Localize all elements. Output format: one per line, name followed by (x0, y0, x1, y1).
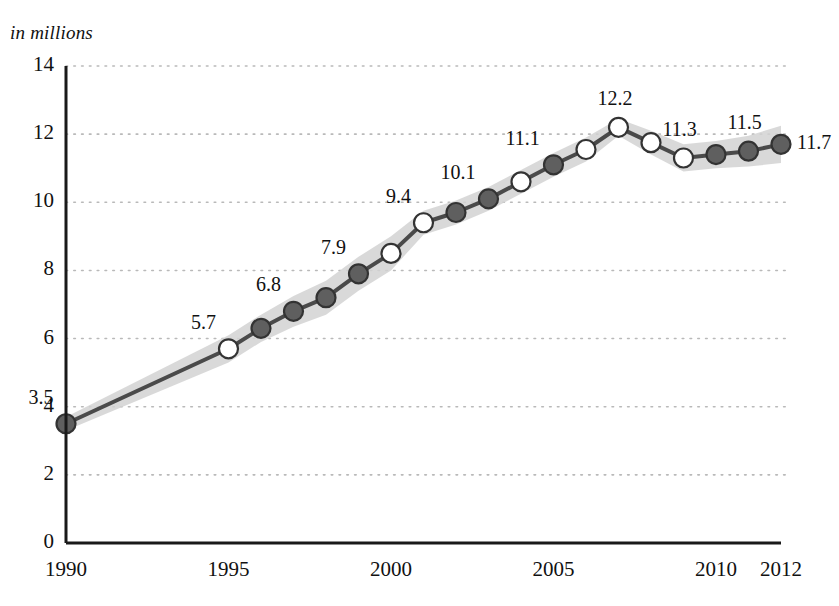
data-point-2000[interactable] (382, 244, 401, 263)
data-point-2008[interactable] (642, 133, 661, 152)
point-value-label-2009: 11.3 (663, 118, 697, 141)
x-tick-label-2012: 2012 (746, 557, 816, 582)
uncertainty-band (66, 119, 781, 431)
data-point-2002[interactable] (447, 203, 466, 222)
x-tick-label-2000: 2000 (356, 557, 426, 582)
data-point-1999[interactable] (349, 264, 368, 283)
point-value-label-1995: 5.7 (191, 311, 216, 334)
data-point-1997[interactable] (284, 302, 303, 321)
data-point-1995[interactable] (219, 339, 238, 358)
y-tick-label-12: 12 (14, 120, 54, 145)
point-value-label-2007: 12.2 (598, 87, 633, 110)
point-value-label-2001: 9.4 (386, 185, 411, 208)
data-point-2007[interactable] (609, 118, 628, 137)
point-value-label-2005: 11.1 (506, 127, 540, 150)
point-value-label-2012: 11.7 (797, 131, 831, 154)
data-point-2012[interactable] (772, 135, 791, 154)
y-tick-label-8: 8 (14, 256, 54, 281)
x-tick-label-1990: 1990 (31, 557, 101, 582)
data-point-2001[interactable] (414, 213, 433, 232)
y-tick-label-14: 14 (14, 52, 54, 77)
data-point-2010[interactable] (707, 145, 726, 164)
y-tick-label-0: 0 (14, 529, 54, 554)
data-point-2006[interactable] (577, 140, 596, 159)
data-point-1998[interactable] (317, 288, 336, 307)
y-tick-label-6: 6 (14, 325, 54, 350)
point-value-label-2011: 11.5 (728, 111, 762, 134)
x-tick-label-2005: 2005 (519, 557, 589, 582)
uncertainty-band-group (66, 119, 781, 431)
point-value-label-2003: 10.1 (441, 161, 476, 184)
data-point-2004[interactable] (512, 172, 531, 191)
chart-container: in millions 02468101214 1990199520002005… (0, 0, 839, 606)
data-point-1996[interactable] (252, 319, 271, 338)
point-value-label-1997: 6.8 (256, 273, 281, 296)
point-value-label-1990: 3.5 (29, 386, 54, 409)
data-point-2009[interactable] (674, 148, 693, 167)
y-tick-label-10: 10 (14, 188, 54, 213)
x-tick-label-1995: 1995 (194, 557, 264, 582)
chart-plot-area (0, 0, 839, 606)
data-point-2003[interactable] (479, 189, 498, 208)
point-value-label-1999: 7.9 (321, 236, 346, 259)
data-point-2011[interactable] (739, 142, 758, 161)
y-tick-label-2: 2 (14, 461, 54, 486)
data-point-2005[interactable] (544, 155, 563, 174)
x-tick-label-2010: 2010 (681, 557, 751, 582)
